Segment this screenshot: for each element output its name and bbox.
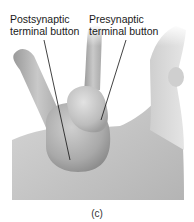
postsynaptic-label-line1: Postsynaptic [10, 14, 79, 26]
figure-caption: (c) [0, 208, 194, 219]
postsynaptic-label-line2: terminal button [10, 26, 79, 38]
presynaptic-label: Presynaptic terminal button [89, 14, 158, 37]
synapse-figure: Postsynaptic terminal button Presynaptic… [0, 0, 194, 222]
presynaptic-leader-line [101, 40, 126, 120]
right-bump [168, 67, 184, 87]
presynaptic-label-line2: terminal button [89, 26, 158, 38]
postsynaptic-label: Postsynaptic terminal button [10, 14, 79, 37]
presynaptic-label-line1: Presynaptic [89, 14, 158, 26]
